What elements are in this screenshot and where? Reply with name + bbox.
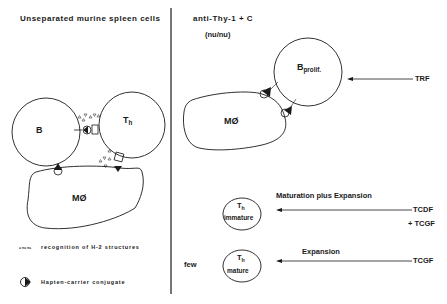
left-panel-title: Unseparated murine spleen cells [20, 14, 160, 23]
b-cell-label: B [36, 125, 43, 135]
diagram-canvas [0, 0, 447, 304]
macrophage-right-label: MØ [224, 116, 239, 126]
th-mature-main-label: Th [237, 253, 245, 263]
trf-label: TRF [415, 74, 430, 83]
few-label: few [184, 260, 197, 269]
h2-recognition-marks-bottom [99, 150, 111, 168]
legend-recognition-text: recognition of H-2 structures [41, 244, 140, 250]
tcdf-label: TCDF [413, 205, 433, 214]
th-cell-label: Th [123, 115, 132, 126]
b-prolif-sub: prolif. [304, 66, 322, 73]
legend-recognition-icon: ▵▿▵▿▵ [19, 245, 32, 250]
th-immature-sub: h [242, 205, 245, 211]
macrophage-left-label: MØ [72, 193, 87, 203]
th-mature-sub: h [242, 257, 245, 263]
th-mature-label: mature [227, 267, 249, 274]
th-immature-main-label: Th [237, 201, 245, 211]
th-immature-label: immature [224, 214, 253, 221]
th-cell-sub: h [129, 119, 133, 126]
h2-recognition-marks-top [78, 114, 100, 121]
right-panel-title: anti-Thy-1 + C [193, 14, 253, 23]
b-prolif-label: Bprolif. [297, 62, 321, 73]
expansion-label: Expansion [302, 247, 340, 256]
right-panel-subtitle: (nu/nu) [205, 30, 230, 39]
b-cell-circle [12, 98, 80, 166]
maturation-label: Maturation plus Expansion [276, 191, 372, 200]
legend-conjugate-text: Hapten-carrier conjugate [41, 279, 125, 285]
tcgf-label: TCGF [413, 256, 433, 265]
tcgf-plus-label: + TCGF [408, 219, 435, 228]
conjugate-th-mac [114, 166, 122, 172]
receptor-th [92, 125, 98, 134]
